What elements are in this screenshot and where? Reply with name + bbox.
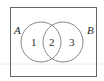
region-3-label: 3 (69, 36, 75, 48)
set-a-label: A (13, 24, 21, 36)
set-a-circle (21, 22, 61, 62)
set-b-label: B (87, 24, 94, 36)
region-2-label: 2 (49, 36, 55, 48)
venn-diagram: A B 1 2 3 (0, 0, 104, 81)
region-1-label: 1 (31, 36, 37, 48)
